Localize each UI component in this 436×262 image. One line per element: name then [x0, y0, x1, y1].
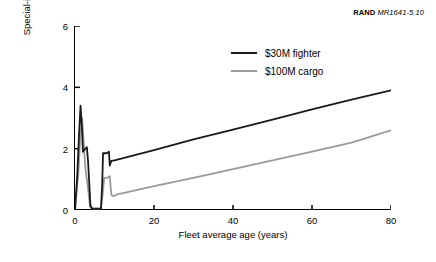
x-axis-tick-0: 0 — [72, 215, 77, 226]
legend-swatch-cargo — [231, 70, 257, 73]
x-axis-tick-3: 60 — [307, 215, 318, 226]
chart-legend: $30M fighter $100M cargo — [225, 40, 329, 84]
legend-item-cargo: $100M cargo — [231, 62, 323, 80]
y-axis-tick-0: 0 — [63, 205, 68, 216]
y-axis-tick-2: 4 — [63, 82, 68, 93]
rand-credit: RAND MR1641-5.10 — [353, 8, 424, 17]
legend-label-cargo: $100M cargo — [265, 66, 323, 77]
y-axis-label-line1: Special-inspection workload (MMH/FH) — [21, 0, 32, 35]
x-axis-label: Fleet average age (years) — [75, 229, 391, 240]
x-axis-tick-2: 40 — [228, 215, 239, 226]
legend-item-fighter: $30M fighter — [231, 44, 323, 62]
y-axis-tick-3: 6 — [63, 21, 68, 32]
y-axis-tick-1: 2 — [63, 143, 68, 154]
plot-area: Special-inspection workload (MMH/FH) Fle… — [74, 26, 390, 210]
series-line-0 — [75, 90, 391, 210]
rand-report-code: MR1641-5.10 — [377, 8, 424, 17]
chart-figure: RAND MR1641-5.10 Special-inspection work… — [0, 0, 436, 262]
legend-label-fighter: $30M fighter — [265, 48, 321, 59]
x-axis-tick-1: 20 — [149, 215, 160, 226]
y-axis-label: Special-inspection workload (MMH/FH) — [21, 0, 33, 38]
x-axis-tick-4: 80 — [386, 215, 397, 226]
legend-swatch-fighter — [231, 52, 257, 55]
series-line-1 — [75, 118, 391, 210]
rand-brand: RAND — [353, 8, 375, 17]
